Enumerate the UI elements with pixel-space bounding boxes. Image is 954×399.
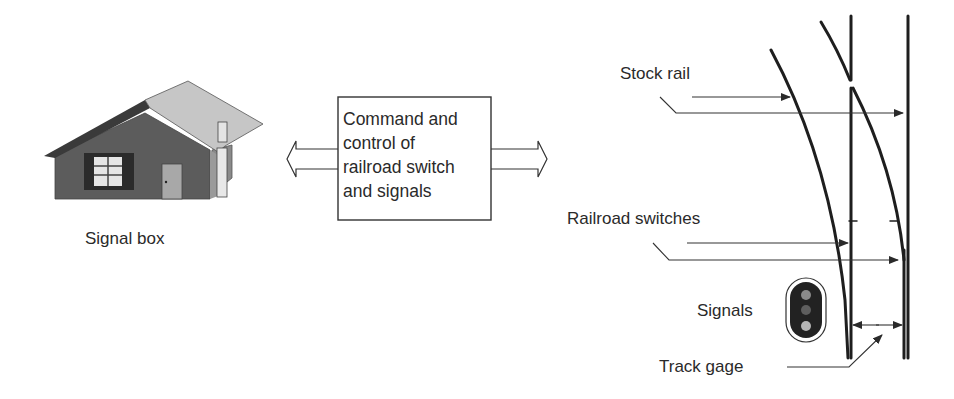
signal-box-label: Signal box — [85, 230, 164, 247]
traffic-signal-icon — [786, 278, 826, 342]
stock-rail-label: Stock rail — [620, 65, 690, 82]
command-box-line: Command and — [343, 107, 458, 131]
command-box-text: Command and control of railroad switch a… — [343, 107, 458, 203]
railroad-switches-label: Railroad switches — [567, 210, 700, 227]
command-box-line: control of — [343, 131, 458, 155]
signals-label: Signals — [697, 302, 753, 319]
command-box-line: railroad switch — [343, 155, 458, 179]
signal-box-icon — [44, 81, 263, 199]
leader-lines — [653, 97, 903, 367]
diagram-canvas — [0, 0, 954, 399]
command-box-line: and signals — [343, 179, 458, 203]
track-gage-label: Track gage — [659, 358, 743, 375]
